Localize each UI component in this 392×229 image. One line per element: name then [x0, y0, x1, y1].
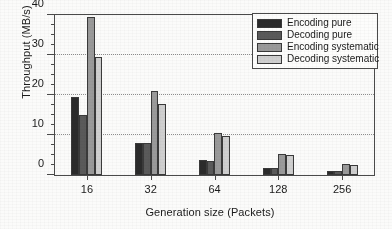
y-axis-title: Throughput (MB/s) — [20, 0, 32, 122]
y-axis-minor-tick — [51, 124, 55, 125]
legend-label: Decoding pure — [287, 30, 352, 40]
x-axis-tick-label: 64 — [208, 183, 220, 195]
y-axis-minor-tick — [51, 44, 55, 45]
y-axis-minor-tick — [51, 64, 55, 65]
x-axis-tick — [87, 175, 88, 180]
legend-swatch — [257, 31, 282, 40]
legend-label: Encoding pure — [287, 18, 352, 28]
legend-item: Decoding pure — [257, 29, 373, 41]
bar — [263, 168, 271, 175]
x-axis-tick-label: 32 — [145, 183, 157, 195]
y-axis-minor-tick — [51, 104, 55, 105]
bar — [327, 171, 335, 175]
bar — [271, 168, 279, 175]
y-axis-minor-tick — [51, 84, 55, 85]
x-axis-tick-label: 128 — [269, 183, 287, 195]
x-axis-tick-label: 16 — [81, 183, 93, 195]
y-axis-tick-label: 40 — [32, 0, 44, 9]
y-axis-minor-tick — [51, 164, 55, 165]
x-axis-title: Generation size (Packets) — [44, 206, 376, 218]
y-axis-minor-tick — [51, 114, 55, 115]
bar — [95, 57, 103, 175]
x-axis-tick-label: 256 — [333, 183, 351, 195]
bar-chart-figure: Throughput (MB/s) Generation size (Packe… — [0, 0, 392, 229]
bar-group — [135, 15, 166, 175]
y-axis-tick-label: 20 — [32, 77, 44, 89]
bar — [222, 136, 230, 175]
legend-swatch — [257, 43, 282, 52]
bar — [151, 91, 159, 175]
y-axis-minor-tick — [51, 154, 55, 155]
y-axis-tick-label: 30 — [32, 37, 44, 49]
chart-legend: Encoding pureDecoding pureEncoding syste… — [252, 13, 378, 69]
bar — [199, 160, 207, 175]
y-axis-minor-tick — [51, 144, 55, 145]
bar — [350, 165, 358, 175]
legend-swatch — [257, 19, 282, 28]
legend-label: Decoding systematic — [287, 54, 379, 64]
bar — [278, 154, 286, 175]
y-axis-tick — [47, 14, 55, 15]
legend-item: Encoding pure — [257, 17, 373, 29]
bar — [71, 97, 79, 175]
y-axis-tick — [47, 94, 55, 95]
bar — [143, 143, 151, 175]
y-axis-tick-label: 10 — [32, 117, 44, 129]
y-axis-tick — [47, 174, 55, 175]
bar — [214, 133, 222, 175]
x-axis-tick — [151, 175, 152, 180]
bar — [87, 17, 95, 175]
legend-label: Encoding systematic — [287, 42, 379, 52]
bar — [207, 161, 215, 175]
bar — [342, 164, 350, 175]
bar-group — [71, 15, 102, 175]
bar — [79, 115, 87, 175]
x-axis-tick — [342, 175, 343, 180]
bar — [135, 143, 143, 175]
bar — [286, 155, 294, 175]
bar — [334, 171, 342, 175]
x-axis-tick — [215, 175, 216, 180]
bar-group — [199, 15, 230, 175]
y-axis-tick — [47, 54, 55, 55]
y-axis-minor-tick — [51, 34, 55, 35]
y-axis-minor-tick — [51, 24, 55, 25]
legend-item: Encoding systematic — [257, 41, 373, 53]
y-axis-tick — [47, 134, 55, 135]
bar — [158, 104, 166, 175]
x-axis-tick — [278, 175, 279, 180]
y-axis-minor-tick — [51, 74, 55, 75]
legend-swatch — [257, 55, 282, 64]
legend-item: Decoding systematic — [257, 53, 373, 65]
y-axis-tick-label: 0 — [38, 157, 44, 169]
